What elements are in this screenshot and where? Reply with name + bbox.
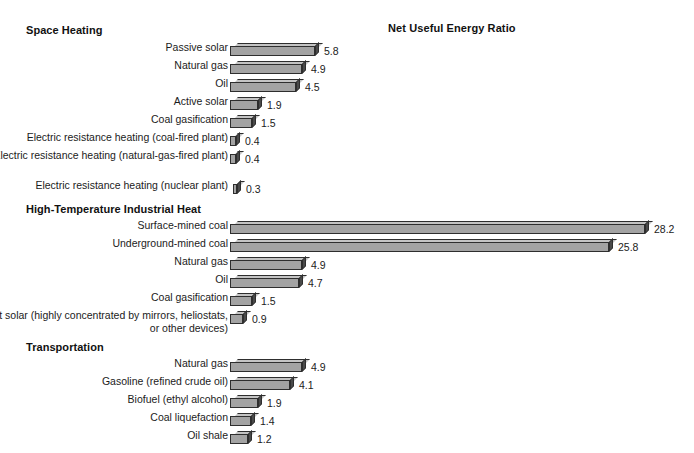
bar-row: Surface-mined coal 28.2 <box>0 219 694 237</box>
bar-row: Natural gas 4.9 <box>0 255 694 273</box>
bar-3d: 28.2 <box>230 221 649 234</box>
bar-3d: 4.7 <box>230 275 303 288</box>
bar-value-label: 4.7 <box>308 277 323 289</box>
bar-value-label: 0.4 <box>245 135 260 147</box>
bar-front-face <box>230 260 302 270</box>
bar-row: Underground-mined coal 25.8 <box>0 237 694 255</box>
bar-front-face <box>230 118 252 128</box>
bar-value-label: 0.9 <box>252 313 267 325</box>
bar-side-face <box>290 376 294 390</box>
bar-row: Electric resistance heating (nuclear pla… <box>0 179 694 197</box>
bar-row: Biofuel (ethyl alcohol) 1.9 <box>0 393 694 411</box>
bar-row-label: Direct solar (highly concentrated by mir… <box>0 309 228 334</box>
bar-3d: 0.4 <box>230 133 240 146</box>
bar-value-label: 4.9 <box>311 63 326 75</box>
bar-row-label: Coal gasification <box>0 113 228 126</box>
bar-row: Passive solar 5.8 <box>0 41 694 59</box>
bar-row: Electric resistance heating (natural-gas… <box>0 149 694 167</box>
bar-side-face <box>252 114 256 128</box>
bar-3d: 4.9 <box>230 61 306 74</box>
bar-value-label: 0.3 <box>246 183 261 195</box>
section-heading-space-heating: Space Heating <box>26 24 102 36</box>
bar-3d: 1.4 <box>230 413 255 426</box>
bar-row-label: Active solar <box>0 95 228 108</box>
bar-value-label: 1.5 <box>261 117 276 129</box>
bar-side-face <box>258 394 262 408</box>
bar-value-label: 4.9 <box>311 361 326 373</box>
bar-row-label: Gasoline (refined crude oil) <box>0 375 228 388</box>
bar-row: Oil shale 1.2 <box>0 429 694 447</box>
bar-side-face <box>248 430 252 444</box>
bar-front-face <box>230 100 258 110</box>
bar-row: Natural gas 4.9 <box>0 59 694 77</box>
bar-3d: 1.9 <box>230 395 262 408</box>
bar-row: Gasoline (refined crude oil) 4.1 <box>0 375 694 393</box>
bar-front-face <box>230 296 252 306</box>
bar-front-face <box>230 82 296 92</box>
bar-3d: 25.8 <box>230 239 613 252</box>
bar-front-face <box>230 242 609 252</box>
bar-row: Coal gasification 1.5 <box>0 113 694 131</box>
bar-side-face <box>296 78 300 92</box>
bar-3d: 4.1 <box>230 377 294 390</box>
bar-row-label: Electric resistance heating (coal-fired … <box>0 131 228 144</box>
bar-value-label: 1.9 <box>267 99 282 111</box>
bar-value-label: 28.2 <box>654 223 674 235</box>
bar-3d: 4.9 <box>230 359 306 372</box>
bar-row-label: Coal gasification <box>0 291 228 304</box>
bar-side-face <box>302 358 306 372</box>
bar-row: Direct solar (highly concentrated by mir… <box>0 309 694 327</box>
bar-3d: 4.9 <box>230 257 306 270</box>
bar-3d: 0.4 <box>230 151 240 164</box>
section-heading-high-temperature-industrial-heat: High-Temperature Industrial Heat <box>26 203 201 215</box>
bar-row: Coal liquefaction 1.4 <box>0 411 694 429</box>
bar-row: Natural gas 4.9 <box>0 357 694 375</box>
bar-front-face <box>233 184 237 194</box>
bar-side-face <box>315 42 319 56</box>
bar-3d: 0.3 <box>233 181 241 194</box>
bar-front-face <box>230 136 236 146</box>
bar-3d: 5.8 <box>230 43 319 56</box>
bar-front-face <box>230 278 299 288</box>
bar-side-face <box>236 132 240 146</box>
bar-value-label: 4.1 <box>299 379 314 391</box>
bar-3d: 1.9 <box>230 97 262 110</box>
bar-front-face <box>230 46 315 56</box>
bar-value-label: 1.9 <box>267 397 282 409</box>
bar-row: Oil 4.5 <box>0 77 694 95</box>
bar-row-label: Natural gas <box>0 59 228 72</box>
bar-3d: 1.5 <box>230 115 256 128</box>
bar-side-face <box>258 96 262 110</box>
bar-row-label: Oil shale <box>0 429 228 442</box>
bar-3d: 1.5 <box>230 293 256 306</box>
bar-row-label: Electric resistance heating (natural-gas… <box>0 149 228 162</box>
bar-row-label: Surface-mined coal <box>0 219 228 232</box>
bar-row-label: Underground-mined coal <box>0 237 228 250</box>
bar-value-label: 4.9 <box>311 259 326 271</box>
bar-value-label: 1.5 <box>261 295 276 307</box>
bar-row-label: Oil <box>0 77 228 90</box>
bar-value-label: 4.5 <box>305 81 320 93</box>
bar-row-label: Passive solar <box>0 41 228 54</box>
bar-row-label: Natural gas <box>0 357 228 370</box>
bar-side-face <box>609 238 613 252</box>
bar-value-label: 0.4 <box>245 153 260 165</box>
bar-row: Electric resistance heating (coal-fired … <box>0 131 694 149</box>
bar-value-label: 5.8 <box>324 45 339 57</box>
bar-3d: 0.9 <box>230 311 247 324</box>
bar-row-label: Electric resistance heating (nuclear pla… <box>0 179 228 192</box>
bar-value-label: 25.8 <box>618 241 638 253</box>
bar-side-face <box>302 60 306 74</box>
bar-row-label: Coal liquefaction <box>0 411 228 424</box>
bar-side-face <box>237 180 241 194</box>
bar-side-face <box>645 220 649 234</box>
bar-row-label: Oil <box>0 273 228 286</box>
bar-side-face <box>299 274 303 288</box>
bar-side-face <box>251 412 255 426</box>
bar-row-label: Biofuel (ethyl alcohol) <box>0 393 228 406</box>
bar-side-face <box>236 150 240 164</box>
bar-front-face <box>230 398 258 408</box>
section-heading-transportation: Transportation <box>26 341 104 353</box>
bar-value-label: 1.2 <box>257 433 272 445</box>
chart-title: Net Useful Energy Ratio <box>388 22 516 34</box>
